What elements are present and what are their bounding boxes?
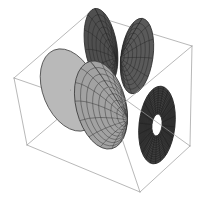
wireframe-3d-plot: [0, 0, 207, 207]
figure-root: [0, 0, 207, 207]
